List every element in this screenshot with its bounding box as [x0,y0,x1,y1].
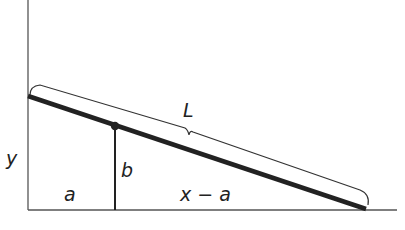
label-y: y [5,147,18,169]
contact-point [111,122,119,130]
label-b: b [121,159,133,181]
diagram-canvas: y a b x − a L [0,0,405,230]
label-x-minus-a: x − a [179,183,231,205]
label-L: L [183,99,194,121]
label-a: a [64,183,76,205]
